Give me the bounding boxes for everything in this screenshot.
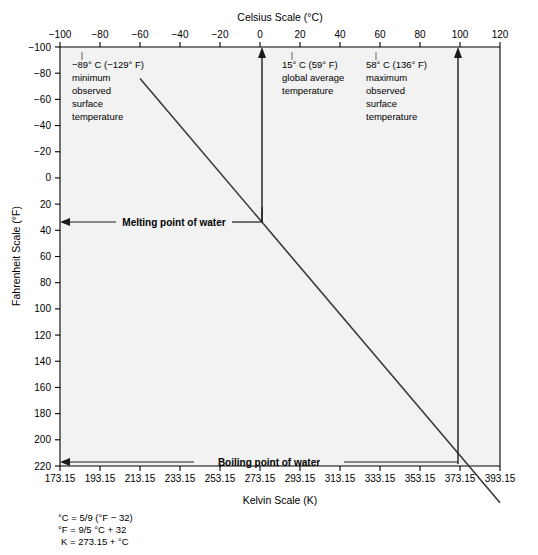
celsius-tick-label: 40 <box>334 29 346 40</box>
celsius-tick-group: −100−80−60−40−20020406080100120 <box>49 29 509 47</box>
fahrenheit-tick-label: 40 <box>40 225 52 236</box>
fahrenheit-tick-label: 80 <box>40 277 52 288</box>
fahrenheit-axis-title: Fahrenheit Scale (°F) <box>10 206 22 306</box>
chart-canvas: −100−80−60−40−20020406080100120 173.1519… <box>0 0 538 555</box>
kelvin-tick-label: 233.15 <box>165 473 196 484</box>
fahrenheit-tick-label: 200 <box>34 434 51 445</box>
kelvin-tick-label: 313.15 <box>325 473 356 484</box>
temperature-scale-chart: −100−80−60−40−20020406080100120 173.1519… <box>0 0 538 555</box>
annotation-max-temp-line2: maximum <box>366 72 407 83</box>
annotation-min-temp-line5: temperature <box>72 111 123 122</box>
celsius-tick-label: 120 <box>492 29 509 40</box>
kelvin-tick-label: 213.15 <box>125 473 156 484</box>
boiling-point-label: Boiling point of water <box>218 457 320 468</box>
kelvin-tick-label: 333.15 <box>365 473 396 484</box>
annotation-max-temp-line3: observed <box>366 85 405 96</box>
kelvin-tick-label: 173.15 <box>45 473 76 484</box>
fahrenheit-tick-label: 160 <box>34 382 51 393</box>
kelvin-tick-label: 273.15 <box>245 473 276 484</box>
celsius-tick-label: −80 <box>92 29 109 40</box>
fahrenheit-tick-group: −100−80−60−40−20020406080100120140160180… <box>28 42 60 472</box>
kelvin-axis-title: Kelvin Scale (K) <box>243 494 318 506</box>
fahrenheit-tick-label: 60 <box>40 251 52 262</box>
formula-fahrenheit: °F = 9/5 °C + 32 <box>58 524 126 535</box>
plot-area-background <box>60 47 500 466</box>
annotation-min-temp-line2: minimum <box>72 72 111 83</box>
annotation-avg-temp-line2: global average <box>282 72 344 83</box>
annotation-avg-temp-line1: 15° C (59° F) <box>282 59 338 70</box>
fahrenheit-tick-label: 100 <box>34 303 51 314</box>
fahrenheit-tick-label: −60 <box>34 94 51 105</box>
fahrenheit-tick-label: 20 <box>40 199 52 210</box>
annotation-max-temp-line5: temperature <box>366 111 417 122</box>
fahrenheit-tick-label: 120 <box>34 330 51 341</box>
celsius-tick-label: 0 <box>257 29 263 40</box>
conversion-formulas: °C = 5/9 (°F − 32) °F = 9/5 °C + 32 K = … <box>58 512 133 547</box>
kelvin-tick-label: 253.15 <box>205 473 236 484</box>
fahrenheit-tick-label: 220 <box>34 461 51 472</box>
annotation-min-temp-line3: observed <box>72 85 111 96</box>
celsius-tick-label: 80 <box>414 29 426 40</box>
annotation-max-temp-line4: surface <box>366 98 397 109</box>
celsius-tick-label: 60 <box>374 29 386 40</box>
annotation-min-temp-line1: −89° C (−129° F) <box>72 59 144 70</box>
fahrenheit-tick-label: −40 <box>34 120 51 131</box>
fahrenheit-tick-label: 180 <box>34 408 51 419</box>
kelvin-tick-label: 393.15 <box>485 473 516 484</box>
kelvin-tick-label: 373.15 <box>445 473 476 484</box>
celsius-tick-label: −60 <box>132 29 149 40</box>
annotation-max-temp-line1: 58° C (136° F) <box>366 59 427 70</box>
fahrenheit-tick-label: −100 <box>28 42 51 53</box>
celsius-axis-title: Celsius Scale (°C) <box>237 11 322 23</box>
kelvin-tick-group: 173.15193.15213.15233.15253.15273.15293.… <box>45 466 516 484</box>
kelvin-tick-label: 193.15 <box>85 473 116 484</box>
annotation-avg-temp-line3: temperature <box>282 85 333 96</box>
celsius-tick-label: −40 <box>172 29 189 40</box>
fahrenheit-tick-label: −20 <box>34 146 51 157</box>
fahrenheit-tick-label: 0 <box>45 172 51 183</box>
fahrenheit-tick-label: −80 <box>34 68 51 79</box>
formula-kelvin: K = 273.15 + °C <box>61 536 129 547</box>
celsius-tick-label: −20 <box>212 29 229 40</box>
celsius-tick-label: 100 <box>452 29 469 40</box>
formula-celsius: °C = 5/9 (°F − 32) <box>58 512 133 523</box>
celsius-tick-label: 20 <box>294 29 306 40</box>
fahrenheit-tick-label: 140 <box>34 356 51 367</box>
celsius-tick-label: −100 <box>49 29 72 40</box>
kelvin-tick-label: 293.15 <box>285 473 316 484</box>
kelvin-tick-label: 353.15 <box>405 473 436 484</box>
annotation-min-temp-line4: surface <box>72 98 103 109</box>
melting-point-label: Melting point of water <box>122 217 225 228</box>
